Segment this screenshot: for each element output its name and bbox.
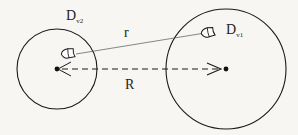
diagram-canvas: Dv2 Dv1 r R (0, 0, 298, 135)
left-volume-element-icon (60, 47, 76, 61)
right-volume-element-icon (200, 25, 216, 40)
r-label: r (124, 25, 129, 40)
R-label: R (125, 77, 135, 92)
right-center-dot (224, 67, 229, 72)
left-volume-label: Dv2 (66, 8, 84, 25)
left-center-dot (55, 67, 60, 72)
r-distance-line (76, 33, 205, 54)
right-volume-label: Dv1 (226, 22, 244, 39)
